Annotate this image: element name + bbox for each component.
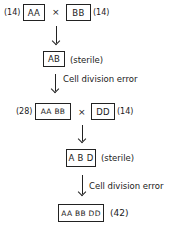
arrow-down-icon <box>55 74 56 91</box>
chromosome-count-aabb: (28) <box>16 107 32 116</box>
genome-box-dd: DD <box>91 103 115 120</box>
cross-symbol: × <box>52 7 60 17</box>
genome-box-aabb: AA BB <box>35 103 71 120</box>
cell-division-error-label: Cell division error <box>89 181 163 191</box>
chromosome-count-aa: (14) <box>4 8 20 17</box>
genome-box-aa: AA <box>23 4 45 21</box>
genome-box-abd: A B D <box>66 149 96 167</box>
genome-box-bb: BB <box>66 4 91 21</box>
chromosome-count-aabbdd: (42) <box>110 208 128 218</box>
genome-box-ab: AB <box>43 51 65 67</box>
arrow-down-icon <box>56 26 57 43</box>
cell-division-error-label: Cell division error <box>63 74 137 84</box>
chromosome-count-dd: (14) <box>117 107 133 116</box>
genome-box-aabbdd: AA BB DD <box>58 204 104 222</box>
arrow-down-icon <box>82 175 83 194</box>
sterile-note-abd: (sterile) <box>101 153 134 163</box>
sterile-note-ab: (sterile) <box>70 55 103 65</box>
cross-symbol: × <box>78 107 86 117</box>
chromosome-count-bb: (14) <box>93 8 109 17</box>
arrow-down-icon <box>82 125 83 141</box>
